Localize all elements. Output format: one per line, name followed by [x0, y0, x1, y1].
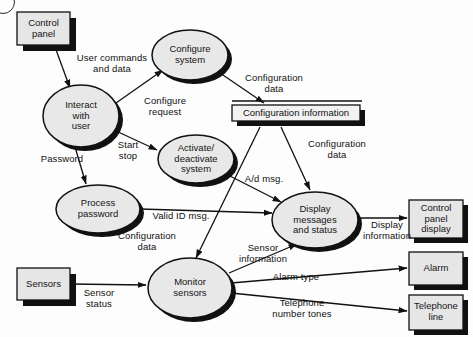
- entity-control-panel[interactable]: [17, 12, 70, 45]
- entity-alarm[interactable]: [409, 252, 463, 285]
- dfd-canvas: Interact with user Configure system Acti…: [0, 0, 473, 337]
- flow-label-alarm-type: Alarm type: [264, 272, 328, 283]
- dfd-graphics-layer: [0, 0, 473, 337]
- flow-label-configuration-data-to-monitor: Configuration data: [110, 231, 184, 252]
- flow-label-user-commands-and-data: User commands and data: [68, 53, 156, 74]
- flow-sensor-status: [70, 284, 146, 285]
- process-activate-deactivate-system[interactable]: [158, 135, 234, 183]
- flow-label-sensor-information: Sensor information: [230, 243, 296, 264]
- flow-label-start-stop: Start stop: [111, 140, 145, 161]
- flow-label-sensor-status: Sensor status: [76, 288, 122, 309]
- flow-label-display-information: Display information: [358, 220, 416, 241]
- flow-label-valid-id-msg: Valid ID msg.: [145, 211, 217, 222]
- process-configure-system[interactable]: [152, 30, 228, 80]
- process-monitor-sensors[interactable]: [148, 258, 232, 318]
- entity-sensors[interactable]: [17, 268, 70, 300]
- process-interact-with-user[interactable]: [43, 85, 119, 147]
- flow-arrows: [55, 47, 407, 311]
- flow-label-ad-msg: A/d msg.: [238, 174, 290, 185]
- flow-label-telephone-number-tones: Telephone number tones: [262, 298, 342, 319]
- flow-label-configure-request: Configure request: [134, 96, 196, 117]
- process-display-messages-and-status[interactable]: [272, 192, 358, 248]
- entity-control-panel-display[interactable]: [409, 200, 463, 238]
- flow-label-configuration-data-to-display: Configuration data: [300, 139, 374, 160]
- process-process-password[interactable]: [56, 185, 140, 233]
- entity-telephone-line[interactable]: [409, 295, 463, 330]
- flow-label-password: Password: [34, 154, 90, 165]
- flow-label-configuration-data-store-in: Configuration data: [237, 73, 311, 94]
- store-label-configuration-information: Configuration information: [232, 107, 360, 118]
